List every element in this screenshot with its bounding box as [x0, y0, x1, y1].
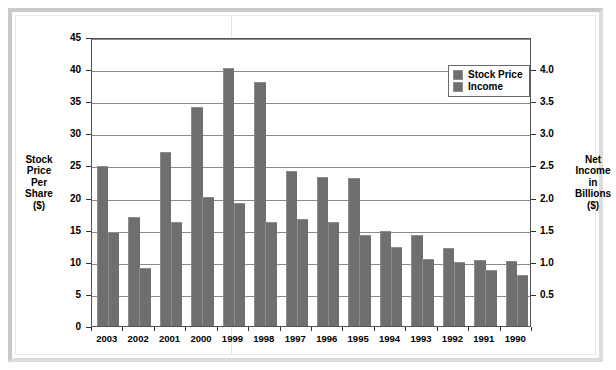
- legend-swatch-icon: [453, 82, 463, 92]
- x-axis-tick: [500, 327, 501, 331]
- left-axis-label: 25: [49, 161, 81, 171]
- right-axis-tick: [531, 199, 536, 200]
- right-axis-tick: [531, 134, 536, 135]
- x-axis-tick: [122, 327, 123, 331]
- left-axis-label: 0: [49, 322, 81, 332]
- bar-income: [485, 270, 497, 326]
- left-axis-tick: [86, 134, 91, 135]
- bar-stock-price: [317, 177, 329, 326]
- bar-income: [359, 235, 371, 326]
- x-axis-tick: [405, 327, 406, 331]
- axis-title-line: in: [569, 177, 616, 189]
- gridline: [92, 167, 530, 168]
- bar-income: [202, 197, 214, 326]
- gridline: [92, 103, 530, 104]
- axis-title-line: ($): [569, 200, 616, 212]
- bar-income: [108, 232, 120, 326]
- x-axis-tick: [374, 327, 375, 331]
- bar-stock-price: [160, 152, 172, 326]
- bar-stock-price: [380, 231, 392, 326]
- left-axis-label: 20: [49, 194, 81, 204]
- bar-stock-price: [506, 261, 518, 326]
- axis-title-line: Per: [18, 177, 60, 189]
- x-axis-tick: [437, 327, 438, 331]
- bar-stock-price: [443, 248, 455, 326]
- x-axis-tick: [342, 327, 343, 331]
- left-axis-label: 5: [49, 290, 81, 300]
- bar-income: [391, 247, 403, 326]
- x-axis-tick: [185, 327, 186, 331]
- gridline: [92, 39, 530, 40]
- bar-stock-price: [97, 166, 109, 326]
- x-axis-tick: [91, 327, 92, 331]
- left-axis-label: 30: [49, 129, 81, 139]
- left-axis-tick: [86, 295, 91, 296]
- left-axis-tick: [86, 231, 91, 232]
- legend-label: Income: [468, 82, 503, 92]
- right-axis-label: 3.5: [540, 97, 570, 107]
- legend-item[interactable]: Income: [453, 81, 522, 93]
- bar-income: [422, 259, 434, 326]
- bar-stock-price: [348, 178, 360, 326]
- bar-stock-price: [411, 235, 423, 326]
- left-axis-tick: [86, 70, 91, 71]
- x-axis-tick: [154, 327, 155, 331]
- right-axis-title: NetIncomeinBillions($): [569, 154, 616, 212]
- right-axis-label: 3.0: [540, 129, 570, 139]
- chart-legend: Stock PriceIncome: [448, 65, 530, 97]
- bar-stock-price: [223, 68, 235, 326]
- right-axis-tick: [531, 295, 536, 296]
- gridline: [92, 200, 530, 201]
- bar-income: [297, 219, 309, 326]
- left-axis-label: 10: [49, 258, 81, 268]
- axis-title-line: Billions: [569, 188, 616, 200]
- bar-income: [171, 222, 183, 326]
- left-axis-label: 40: [49, 65, 81, 75]
- left-axis-tick: [86, 102, 91, 103]
- right-axis-tick: [531, 102, 536, 103]
- bar-stock-price: [474, 260, 486, 326]
- left-axis-label: 35: [49, 97, 81, 107]
- x-axis-tick: [280, 327, 281, 331]
- gridline: [92, 135, 530, 136]
- legend-swatch-icon: [453, 70, 463, 80]
- x-axis-tick: [217, 327, 218, 331]
- x-axis-tick: [468, 327, 469, 331]
- right-axis-label: 1.5: [540, 226, 570, 236]
- bar-income: [328, 222, 340, 326]
- right-axis-tick: [531, 70, 536, 71]
- right-axis-tick: [531, 231, 536, 232]
- left-axis-tick: [86, 263, 91, 264]
- chart-frame: StockPricePerShare($) NetIncomeinBillion…: [8, 8, 603, 362]
- bar-income: [234, 203, 246, 326]
- bar-stock-price: [286, 171, 298, 326]
- bar-income: [517, 275, 529, 326]
- right-axis-tick: [531, 166, 536, 167]
- right-axis-label: 2.5: [540, 161, 570, 171]
- right-axis-tick: [531, 263, 536, 264]
- x-axis-tick: [531, 327, 532, 331]
- left-axis-label: 45: [49, 33, 81, 43]
- bar-income: [139, 268, 151, 326]
- left-axis-tick: [86, 166, 91, 167]
- left-axis-tick: [86, 38, 91, 39]
- axis-title-line: Net: [569, 154, 616, 166]
- right-axis-label: 2.0: [540, 194, 570, 204]
- legend-label: Stock Price: [468, 70, 522, 80]
- left-axis-tick: [86, 199, 91, 200]
- legend-item[interactable]: Stock Price: [453, 69, 522, 81]
- bar-stock-price: [128, 217, 140, 326]
- x-axis-label: 1990: [495, 334, 535, 344]
- right-axis-label: 1.0: [540, 258, 570, 268]
- bar-stock-price: [191, 107, 203, 326]
- right-axis-label: 0.5: [540, 290, 570, 300]
- x-axis-tick: [248, 327, 249, 331]
- gridline: [92, 232, 530, 233]
- chart-canvas: StockPricePerShare($) NetIncomeinBillion…: [15, 15, 596, 355]
- bar-income: [454, 262, 466, 326]
- axis-title-line: Income: [569, 165, 616, 177]
- right-axis-label: 4.0: [540, 65, 570, 75]
- bar-income: [265, 222, 277, 326]
- x-axis-tick: [311, 327, 312, 331]
- bar-stock-price: [254, 82, 266, 326]
